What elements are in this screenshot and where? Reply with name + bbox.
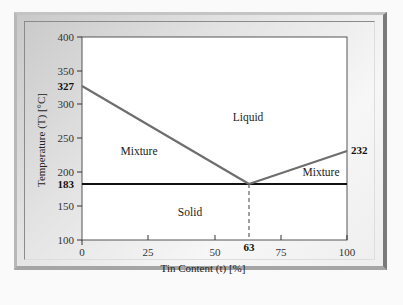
x-tick-75: 75: [276, 246, 288, 258]
y-tick-250: 250: [58, 132, 75, 144]
region-mixture-left-label: Mixture: [120, 145, 157, 157]
y-axis-title: Temperature (T) [°C]: [35, 93, 48, 187]
x-tick-25: 25: [143, 246, 155, 258]
region-mixture-right-label: Mixture: [302, 166, 339, 178]
x-tick-100: 100: [339, 246, 356, 258]
x-tick-50: 50: [210, 246, 222, 258]
region-liquid-label: Liquid: [233, 111, 264, 124]
lead-melting-point-label: 327: [58, 80, 75, 92]
y-tick-400: 400: [58, 31, 75, 43]
y-tick-350: 350: [58, 65, 75, 77]
tin-melting-point-label: 232: [351, 144, 368, 156]
y-tick-100: 100: [58, 234, 75, 246]
y-tick-150: 150: [58, 200, 75, 212]
x-tick-0: 0: [79, 246, 85, 258]
eutectic-temperature-label: 183: [58, 178, 75, 190]
region-solid-label: Solid: [178, 206, 203, 218]
y-axis-ticks: [77, 37, 82, 240]
phase-diagram-chart: 400 350 300 250 200 150 100 327 183 232 …: [0, 0, 403, 305]
y-tick-300: 300: [58, 98, 75, 110]
plot-area: [82, 37, 347, 240]
eutectic-composition-label: 63: [244, 241, 256, 253]
x-axis-title: Tin Content (t) [%]: [161, 262, 246, 275]
y-tick-200: 200: [58, 166, 75, 178]
